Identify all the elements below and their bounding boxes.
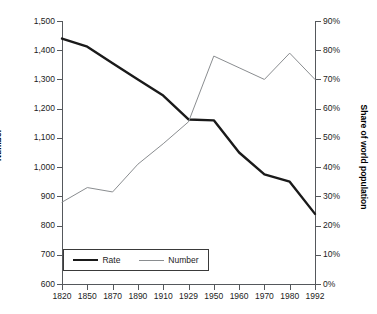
y-axis-left-title: Number — [0, 129, 3, 161]
legend-swatch-rate-icon — [73, 259, 98, 261]
y-axis-right-tick-label: 30% — [323, 192, 340, 201]
y-axis-right-tick-label: 80% — [323, 46, 340, 55]
y-axis-right-tick-label: 0% — [323, 280, 335, 289]
series-line-rate — [62, 39, 315, 214]
chart-legend: Rate Number — [63, 249, 209, 271]
y-axis-left-tick-label: 700 — [41, 250, 55, 259]
legend-swatch-number-icon — [139, 260, 164, 261]
x-axis-tick — [239, 285, 240, 290]
x-axis-tick — [315, 285, 316, 290]
y-axis-left-tick-label: 800 — [41, 221, 55, 230]
x-axis-tick — [290, 285, 291, 290]
legend-label-number: Number — [168, 255, 198, 265]
x-axis-tick — [163, 285, 164, 290]
y-axis-right-tick-label: 40% — [323, 163, 340, 172]
legend-item-rate[interactable]: Rate — [73, 255, 120, 265]
y-axis-left-tick-label: 1,000 — [34, 163, 55, 172]
y-axis-right-tick-label: 70% — [323, 75, 340, 84]
y-axis-right-tick — [316, 138, 321, 139]
y-axis-right-tick-label: 60% — [323, 104, 340, 113]
y-axis-left-tick-label: 1,500 — [34, 17, 55, 26]
y-axis-right-tick — [316, 226, 321, 227]
y-axis-right-tick — [316, 255, 321, 256]
chart-container: Number Share of world population 6007008… — [0, 0, 377, 314]
y-axis-right-tick-label: 10% — [323, 250, 340, 259]
x-axis-tick — [189, 285, 190, 290]
y-axis-right-tick — [316, 50, 321, 51]
y-axis-left-tick-label: 600 — [41, 280, 55, 289]
y-axis-left-tick-label: 1,100 — [34, 133, 55, 142]
y-axis-right-tick — [316, 79, 321, 80]
y-axis-right-tick — [316, 109, 321, 110]
y-axis-right-tick-label: 90% — [323, 17, 340, 26]
y-axis-right-line — [315, 21, 316, 285]
x-axis-tick — [264, 285, 265, 290]
y-axis-left-tick-label: 1,400 — [34, 46, 55, 55]
x-axis-tick — [214, 285, 215, 290]
x-axis-tick-label: 1992 — [295, 292, 335, 301]
y-axis-right-title: Share of world population — [359, 105, 369, 210]
y-axis-left-tick-label: 900 — [41, 192, 55, 201]
x-axis-tick — [113, 285, 114, 290]
y-axis-right-tick — [316, 284, 321, 285]
x-axis-tick — [138, 285, 139, 290]
y-axis-right-tick-label: 50% — [323, 133, 340, 142]
x-axis-tick — [87, 285, 88, 290]
y-axis-right-tick — [316, 21, 321, 22]
series-line-number — [62, 53, 315, 202]
chart-plot-area — [62, 21, 315, 284]
y-axis-left-tick-label: 1,200 — [34, 104, 55, 113]
x-axis-tick — [62, 285, 63, 290]
y-axis-right-tick-label: 20% — [323, 221, 340, 230]
legend-label-rate: Rate — [102, 255, 120, 265]
legend-item-number[interactable]: Number — [139, 255, 198, 265]
y-axis-right-tick — [316, 167, 321, 168]
y-axis-right-tick — [316, 196, 321, 197]
y-axis-left-tick-label: 1,300 — [34, 75, 55, 84]
